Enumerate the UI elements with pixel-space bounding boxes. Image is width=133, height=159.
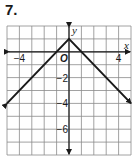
coordinate-plane-chart: xyO−44−2−4−6 — [0, 0, 133, 159]
y-axis-label: y — [71, 24, 77, 36]
y-tick-label: −4 — [57, 98, 69, 109]
y-tick-label: −2 — [57, 73, 69, 84]
x-axis-label: x — [123, 39, 129, 51]
origin-label: O — [60, 53, 68, 64]
x-tick-label: −4 — [14, 53, 26, 64]
x-tick-label: 4 — [116, 53, 122, 64]
y-tick-label: −6 — [57, 124, 69, 135]
